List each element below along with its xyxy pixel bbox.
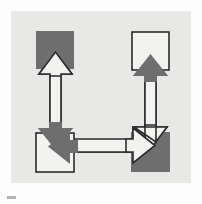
figure-canvas [0,0,202,204]
block-diagram [0,0,202,204]
scan-artifact-mark [7,196,16,199]
